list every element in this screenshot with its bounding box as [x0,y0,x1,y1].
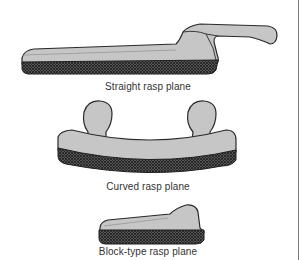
caption-straight-rasp-plane: Straight rasp plane [105,81,191,92]
block-type-rasp-plane [99,205,204,244]
page-edge-divider [298,0,299,260]
rasp-planes-illustration [0,0,302,260]
caption-block-type-rasp-plane: Block-type rasp plane [99,246,197,257]
curved-rasp-plane [58,101,236,173]
straight-rasp-plane [22,24,277,74]
caption-curved-rasp-plane: Curved rasp plane [106,181,189,192]
